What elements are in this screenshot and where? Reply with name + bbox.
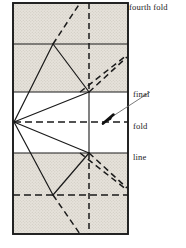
label-final-fold-line: final fold line bbox=[133, 68, 150, 184]
label-final-fold-line-row1: final bbox=[133, 89, 150, 100]
shaded-band-top bbox=[13, 3, 128, 44]
shaded-band-bottom bbox=[13, 195, 128, 234]
folding-diagram-svg bbox=[0, 0, 186, 248]
label-fourth-fold: fourth fold bbox=[129, 2, 168, 13]
figure-container: fourth fold final fold line bbox=[0, 0, 186, 248]
label-final-fold-line-row2: fold bbox=[133, 121, 150, 132]
label-final-fold-line-row3: line bbox=[133, 152, 150, 163]
